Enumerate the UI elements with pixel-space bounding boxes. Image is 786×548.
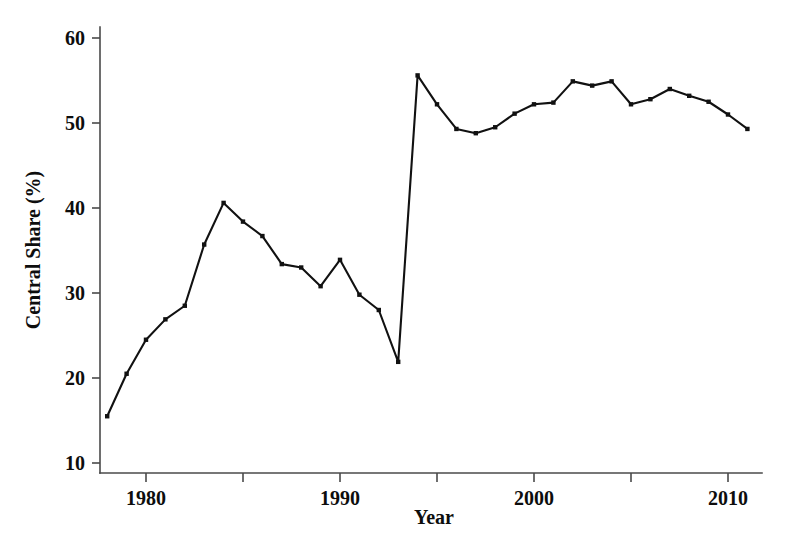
x-tick-label: 1990 bbox=[320, 487, 360, 509]
data-point-marker bbox=[745, 127, 749, 131]
x-tick-label: 2000 bbox=[514, 487, 554, 509]
y-tick-label: 30 bbox=[65, 282, 85, 304]
line-chart: 102030405060 1980199020002010 Year Centr… bbox=[0, 0, 786, 548]
data-point-marker bbox=[163, 317, 167, 321]
y-tick-label: 50 bbox=[65, 112, 85, 134]
data-point-marker bbox=[551, 100, 555, 104]
x-tick-label: 1980 bbox=[126, 487, 166, 509]
data-point-marker bbox=[415, 73, 419, 77]
data-point-marker bbox=[726, 112, 730, 116]
data-point-marker bbox=[474, 131, 478, 135]
data-point-marker bbox=[435, 102, 439, 106]
data-point-marker bbox=[571, 79, 575, 83]
data-point-marker bbox=[706, 100, 710, 104]
data-point-marker bbox=[377, 308, 381, 312]
data-point-marker bbox=[280, 262, 284, 266]
data-point-marker bbox=[338, 258, 342, 262]
data-point-marker bbox=[590, 83, 594, 87]
x-tick-label: 2010 bbox=[708, 487, 748, 509]
data-point-marker bbox=[493, 125, 497, 129]
data-point-marker bbox=[629, 102, 633, 106]
y-axis-title: Central Share (%) bbox=[22, 171, 45, 330]
data-point-marker bbox=[318, 284, 322, 288]
data-point-marker bbox=[299, 265, 303, 269]
y-axis-tick-labels: 102030405060 bbox=[65, 27, 85, 474]
data-point-marker bbox=[241, 219, 245, 223]
data-point-marker bbox=[202, 242, 206, 246]
data-point-marker bbox=[609, 79, 613, 83]
chart-figure: 102030405060 1980199020002010 Year Centr… bbox=[0, 0, 786, 548]
data-point-marker bbox=[357, 293, 361, 297]
x-axis-ticks bbox=[146, 473, 728, 482]
y-tick-label: 60 bbox=[65, 27, 85, 49]
data-point-marker bbox=[512, 111, 516, 115]
data-point-marker bbox=[221, 201, 225, 205]
y-axis-ticks bbox=[92, 38, 100, 463]
data-point-marker bbox=[454, 127, 458, 131]
data-point-marker bbox=[687, 94, 691, 98]
data-point-marker bbox=[183, 304, 187, 308]
data-point-marker bbox=[260, 234, 264, 238]
y-tick-label: 20 bbox=[65, 367, 85, 389]
y-tick-label: 40 bbox=[65, 197, 85, 219]
data-series-markers bbox=[105, 73, 750, 418]
data-point-marker bbox=[668, 87, 672, 91]
data-point-marker bbox=[105, 414, 109, 418]
data-point-marker bbox=[648, 97, 652, 101]
y-tick-label: 10 bbox=[65, 452, 85, 474]
data-point-marker bbox=[124, 372, 128, 376]
data-point-marker bbox=[396, 360, 400, 364]
data-point-marker bbox=[144, 338, 148, 342]
data-point-marker bbox=[532, 102, 536, 106]
x-axis-title: Year bbox=[414, 506, 454, 528]
